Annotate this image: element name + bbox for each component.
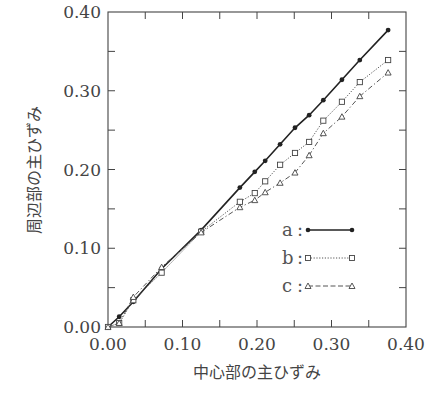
y-axis-label: 周辺部の主ひずみ (25, 106, 44, 234)
open-triangle-icon (237, 204, 243, 209)
filled-circle-icon (321, 98, 326, 103)
open-triangle-icon (252, 197, 258, 202)
filled-circle-icon (278, 142, 283, 147)
y-tick-label: 0.40 (63, 2, 101, 22)
open-square-icon (277, 162, 282, 167)
filled-circle-icon (357, 58, 362, 63)
open-square-icon (252, 191, 257, 196)
figure-caption-clipped (95, 407, 395, 415)
legend-label-c: c (282, 275, 292, 296)
legend-item-b: b : (282, 247, 355, 268)
x-tick-label: 0.00 (89, 334, 127, 354)
filled-circle-icon (293, 125, 298, 130)
x-tick-label: 0.40 (387, 334, 425, 354)
y-tick-labels: 0.000.100.200.300.40 (63, 2, 101, 337)
open-square-icon (306, 256, 311, 261)
open-square-icon (350, 256, 355, 261)
x-axis-label: 中心部の主ひずみ (193, 363, 321, 382)
open-triangle-icon (306, 152, 312, 157)
open-square-icon (357, 79, 362, 84)
open-square-icon (339, 99, 344, 104)
x-tick-label: 0.20 (238, 334, 276, 354)
series-layer (105, 28, 391, 330)
legend-item-a: a : (282, 219, 354, 240)
series-a (106, 28, 391, 330)
filled-circle-icon (350, 228, 355, 233)
filled-circle-icon (117, 314, 122, 319)
legend-sep: : (297, 247, 303, 268)
open-square-icon (263, 179, 268, 184)
y-tick-label: 0.30 (63, 81, 101, 101)
x-tick-labels: 0.000.100.200.300.40 (89, 334, 425, 354)
x-tick-label: 0.10 (164, 334, 202, 354)
series-line-b (108, 60, 388, 327)
open-triangle-icon (320, 130, 326, 135)
open-triangle-icon (130, 294, 136, 299)
legend-label-a: a (282, 219, 293, 240)
filled-circle-icon (340, 77, 345, 82)
legend-item-c: c : (282, 275, 355, 296)
legend: a : b : c : (282, 219, 355, 296)
series-line-a (108, 30, 388, 327)
chart: 0.000.100.200.300.40 0.000.100.200.300.4… (0, 0, 440, 415)
legend-sep: : (297, 219, 303, 240)
open-square-icon (321, 118, 326, 123)
filled-circle-icon (307, 113, 312, 118)
filled-circle-icon (263, 158, 268, 163)
y-tick-label: 0.10 (63, 238, 101, 258)
filled-circle-icon (252, 169, 257, 174)
series-line-c (108, 73, 388, 327)
filled-circle-icon (306, 228, 311, 233)
open-square-icon (159, 270, 164, 275)
legend-label-b: b (282, 247, 294, 268)
open-triangle-icon (262, 189, 268, 194)
x-tick-label: 0.30 (313, 334, 351, 354)
open-triangle-icon (385, 70, 391, 75)
legend-sep: : (297, 275, 303, 296)
series-c (105, 70, 391, 330)
open-square-icon (386, 57, 391, 62)
filled-circle-icon (386, 28, 391, 33)
y-tick-label: 0.00 (63, 317, 101, 337)
open-triangle-icon (277, 180, 283, 185)
open-square-icon (307, 139, 312, 144)
open-triangle-icon (339, 114, 345, 119)
filled-circle-icon (237, 185, 242, 190)
y-tick-label: 0.20 (63, 160, 101, 180)
open-square-icon (292, 150, 297, 155)
series-b (105, 57, 390, 329)
